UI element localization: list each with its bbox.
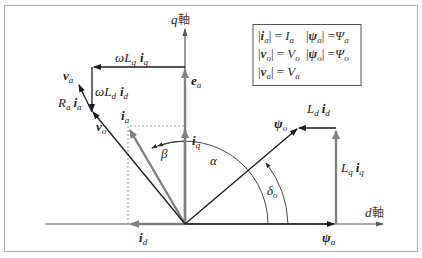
legend-row-ia: |ia| = Ia <box>258 28 295 45</box>
legend-row-va: |va| = Va <box>258 64 300 81</box>
q-axis-label: q軸 <box>171 12 190 27</box>
legend-row-vo: |vo| = Vo <box>258 46 300 63</box>
d-axis-label: d軸 <box>365 205 384 220</box>
legend-row-psi-o: |ψo| =Ψo <box>306 46 349 63</box>
beta-label: β <box>160 146 168 161</box>
legend-row-psi-a: |ψa| =Ψa <box>306 28 349 45</box>
alpha-label: α <box>210 153 218 168</box>
phasor-diagram: q軸 d軸 ea ωLqiq ωLdid va Raia vo ia iq id… <box>0 0 422 258</box>
